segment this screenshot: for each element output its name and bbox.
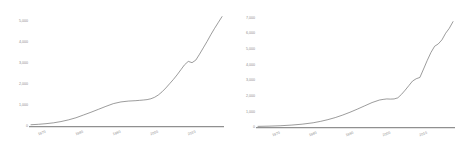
- right-ytick-label: 5,000: [246, 47, 255, 51]
- right-xtick-label: 1980: [308, 131, 317, 137]
- right-ytick-label: 7,000: [246, 16, 255, 20]
- right-xtick-label: 1970: [272, 131, 281, 137]
- left-ytick-label: 5,000: [19, 19, 28, 23]
- left-xtick-label: 2010: [187, 130, 196, 136]
- left-xtick-label: 1970: [37, 130, 46, 136]
- right-x-axis-ticks: 19701980199020002010: [272, 131, 428, 137]
- left-xtick-label: 2000: [150, 130, 159, 136]
- right-ytick-label: 0: [253, 125, 255, 129]
- chart-panel-left: 01,0002,0003,0004,0005,000 1970198019902…: [0, 0, 231, 145]
- right-ytick-label: 3,000: [246, 78, 255, 82]
- right-ytick-label: 1,000: [246, 110, 255, 114]
- right-xtick-label: 2010: [419, 131, 428, 137]
- left-xtick-label: 1990: [112, 130, 121, 136]
- right-xtick-label: 1990: [345, 131, 354, 137]
- right-y-axis-ticks: 01,0002,0003,0004,0005,0006,0007,000: [246, 16, 255, 130]
- chart-panel-right: 01,0002,0003,0004,0005,0006,0007,000 197…: [231, 0, 462, 145]
- left-y-axis-ticks: 01,0002,0003,0004,0005,000: [19, 19, 28, 129]
- right-series-line: [258, 22, 453, 127]
- dual-line-chart-figure: 01,0002,0003,0004,0005,000 1970198019902…: [0, 0, 462, 145]
- left-series-line: [31, 17, 222, 125]
- left-line-chart: 01,0002,0003,0004,0005,000 1970198019902…: [0, 0, 231, 145]
- left-x-axis-ticks: 19701980199020002010: [37, 130, 196, 136]
- right-line-chart: 01,0002,0003,0004,0005,0006,0007,000 197…: [231, 0, 462, 145]
- left-ytick-label: 0: [26, 124, 28, 128]
- left-ytick-label: 1,000: [19, 103, 28, 107]
- right-ytick-label: 6,000: [246, 31, 255, 35]
- right-xtick-label: 2000: [382, 131, 391, 137]
- left-xtick-label: 1980: [75, 130, 84, 136]
- left-ytick-label: 4,000: [19, 40, 28, 44]
- right-ytick-label: 2,000: [246, 94, 255, 98]
- left-ytick-label: 2,000: [19, 82, 28, 86]
- left-ytick-label: 3,000: [19, 61, 28, 65]
- right-ytick-label: 4,000: [246, 63, 255, 67]
